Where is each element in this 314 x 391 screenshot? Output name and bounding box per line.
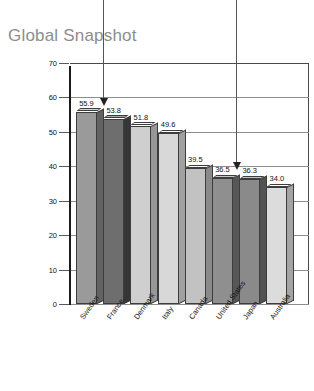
annotation-arrow-sweden xyxy=(99,0,108,108)
arrow-head-icon xyxy=(100,98,108,106)
arrow-shaft xyxy=(236,0,237,164)
x-axis-label-sweden: Sweden xyxy=(78,294,101,321)
annotation-arrow-united-states xyxy=(232,0,241,172)
x-axis-label-australia: Australia xyxy=(268,292,292,321)
x-axis-label-japan: Japan xyxy=(241,299,260,321)
arrow-head-icon xyxy=(233,162,241,170)
arrow-shaft xyxy=(103,0,104,100)
x-axis-label-france: France xyxy=(105,297,126,321)
x-axis-label-denmark: Denmark xyxy=(132,291,157,321)
x-axis-label-canada: Canada xyxy=(187,294,209,321)
x-axis-label-italy: Italy xyxy=(160,305,175,321)
x-axis-labels: SwedenFranceDenmarkItalyCanadaUnited Sta… xyxy=(0,0,314,391)
